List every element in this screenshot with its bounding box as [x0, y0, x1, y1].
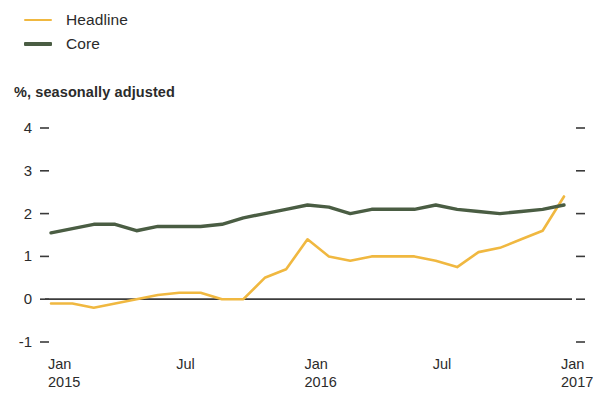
x-tick-month: Jan — [305, 356, 328, 372]
x-axis-tick-label: Jul — [433, 356, 452, 374]
y-axis-tick-label: 4 — [8, 120, 32, 135]
x-tick-month: Jul — [176, 356, 195, 372]
y-axis-tick-label: 0 — [8, 291, 32, 306]
x-tick-year: 2016 — [305, 374, 337, 392]
y-axis-tick-label: 2 — [8, 206, 32, 221]
x-axis-tick-label: Jul — [176, 356, 195, 374]
x-tick-month: Jan — [48, 356, 71, 372]
y-axis-tick-label: 1 — [8, 248, 32, 263]
x-axis-tick-label: Jan2016 — [305, 356, 337, 391]
x-axis-tick-label: Jan2015 — [48, 356, 80, 391]
y-axis-tick-label: 3 — [8, 163, 32, 178]
x-tick-year: 2017 — [561, 374, 593, 392]
y-axis-tick-label: -1 — [8, 334, 32, 349]
series-line-core — [51, 205, 564, 233]
x-axis-tick-label: Jan2017 — [561, 356, 593, 391]
x-tick-month: Jul — [433, 356, 452, 372]
x-tick-month: Jan — [561, 356, 584, 372]
x-tick-year: 2015 — [48, 374, 80, 392]
